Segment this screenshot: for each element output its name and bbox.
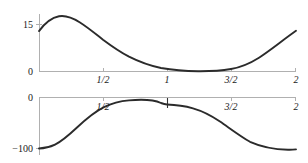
top-ylabel-0: 0: [28, 66, 33, 77]
bottom-xlabel-two: 2: [294, 101, 299, 112]
top-curve: [39, 16, 296, 71]
top-xlabel-half: 1/2: [97, 74, 110, 85]
bottom-xlabel-half: 1/2: [97, 101, 110, 112]
two-panel-plot: 15 0 1/2 1 3/2 2 0 −100 1/2: [0, 0, 308, 163]
figure-container: 15 0 1/2 1 3/2 2 0 −100 1/2: [0, 0, 308, 163]
bottom-panel: 0 −100 1/2 3/2 2: [12, 92, 298, 155]
bottom-ylabel-0: 0: [28, 92, 33, 103]
top-xlabel-three-half: 3/2: [224, 74, 238, 85]
top-xlabel-two: 2: [294, 74, 299, 85]
top-xlabel-one: 1: [165, 74, 170, 85]
top-panel: 15 0 1/2 1 3/2 2: [23, 14, 299, 85]
bottom-xlabel-three-half: 3/2: [224, 101, 238, 112]
top-ylabel-15: 15: [23, 19, 33, 30]
bottom-ylabel-neg100: −100: [12, 143, 33, 154]
